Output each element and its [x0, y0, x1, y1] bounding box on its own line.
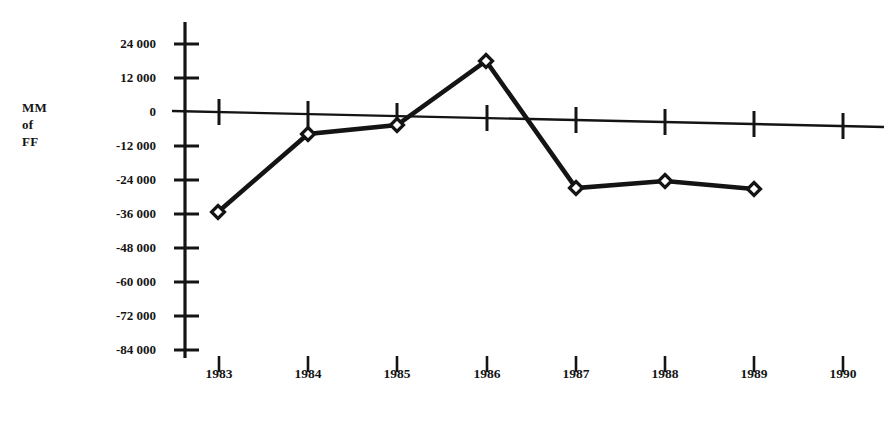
- data-point-marker-icon: [659, 175, 672, 188]
- line-chart: MM of FF 24 000 12 000 0 -12 000 -24 000…: [0, 0, 896, 427]
- series-line: [218, 61, 754, 212]
- series-markers: [212, 55, 761, 219]
- data-point-marker-icon: [748, 183, 761, 196]
- plot-area: [0, 0, 896, 427]
- x-axis-label-ticks: [219, 356, 843, 372]
